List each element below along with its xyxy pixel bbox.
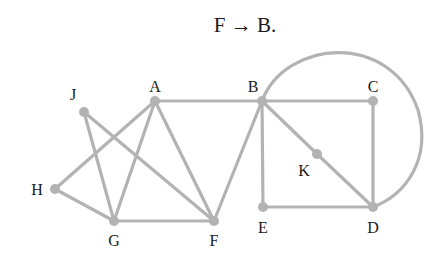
node-label-a: A — [149, 78, 161, 95]
diagram-title: F → B. — [214, 13, 276, 37]
edge-b-e — [262, 101, 263, 207]
arc-b-d — [262, 53, 422, 207]
node-label-h: H — [31, 181, 43, 198]
edge-b-k — [262, 101, 317, 154]
node-label-g: G — [108, 232, 120, 249]
edge-j-f — [84, 112, 214, 221]
node-label-b: B — [248, 78, 259, 95]
node-b — [257, 96, 267, 106]
node-c — [368, 96, 378, 106]
node-label-d: D — [367, 219, 379, 236]
arcs-group — [262, 53, 422, 207]
edge-k-d — [317, 154, 373, 207]
graph-diagram: F → B. ABCJHGFEDK — [0, 0, 440, 265]
node-label-c: C — [368, 78, 379, 95]
node-label-f: F — [210, 232, 219, 249]
node-h — [50, 184, 60, 194]
node-f — [209, 216, 219, 226]
node-a — [150, 96, 160, 106]
node-j — [79, 107, 89, 117]
node-label-j: J — [70, 86, 76, 103]
node-e — [258, 202, 268, 212]
edges-group — [55, 101, 373, 221]
edge-a-f — [155, 101, 214, 221]
node-d — [368, 202, 378, 212]
edge-f-b — [214, 101, 262, 221]
node-g — [109, 216, 119, 226]
edge-j-g — [84, 112, 114, 221]
node-label-e: E — [258, 219, 268, 236]
node-label-k: K — [298, 162, 310, 179]
node-k — [312, 149, 322, 159]
